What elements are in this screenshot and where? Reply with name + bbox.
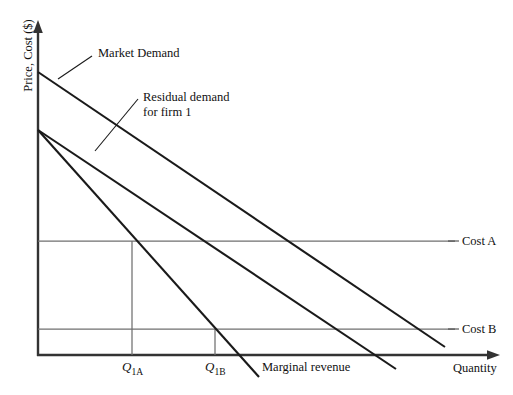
annotation-market-demand: Market Demand bbox=[98, 46, 180, 60]
tick-label-q1a-base: Q bbox=[122, 359, 131, 374]
leader-line-group bbox=[58, 56, 459, 329]
residual-demand-curve bbox=[38, 130, 396, 369]
label-cost-a: Cost A bbox=[462, 234, 496, 249]
marginal-revenue-curve bbox=[38, 130, 259, 377]
y-axis-label: Price, Cost ($) bbox=[21, 6, 36, 106]
quantity-drop-group bbox=[132, 241, 215, 355]
label-cost-b: Cost B bbox=[462, 322, 496, 337]
market-demand-curve bbox=[38, 72, 445, 347]
economics-diagram bbox=[0, 0, 513, 395]
market-demand-leader bbox=[58, 56, 92, 79]
x-axis-arrowhead bbox=[487, 350, 500, 360]
tick-label-q1a-sub: 1A bbox=[131, 367, 143, 377]
annotation-residual-demand-line2: for firm 1 bbox=[143, 105, 192, 119]
curve-group bbox=[38, 72, 445, 377]
cost-line-group bbox=[38, 241, 455, 329]
residual-demand-leader bbox=[95, 99, 138, 151]
tick-label-q1b-base: Q bbox=[205, 359, 214, 374]
tick-label-q1b: Q1B bbox=[205, 359, 225, 377]
annotation-residual-demand-line1: Residual demand bbox=[143, 90, 229, 104]
tick-label-q1b-sub: 1B bbox=[214, 367, 225, 377]
axis-group bbox=[33, 20, 500, 360]
x-axis-label: Quantity bbox=[453, 361, 497, 376]
annotation-marginal-revenue: Marginal revenue bbox=[262, 360, 350, 374]
tick-label-q1a: Q1A bbox=[122, 359, 143, 377]
